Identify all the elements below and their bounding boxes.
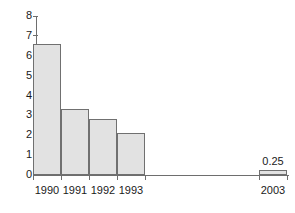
y-tick-label: 6 bbox=[16, 50, 32, 61]
y-tick-label: 4 bbox=[16, 90, 32, 101]
bar-1990[interactable] bbox=[33, 44, 61, 175]
y-tick-mark bbox=[33, 35, 38, 36]
bar-1993[interactable] bbox=[117, 133, 145, 175]
y-tick-mark bbox=[33, 16, 38, 17]
y-tick-label-wrap: 1 bbox=[0, 149, 32, 160]
y-tick-label: 7 bbox=[16, 30, 32, 41]
y-tick-label: 2 bbox=[16, 129, 32, 140]
y-tick-label-wrap: 0 bbox=[0, 169, 32, 180]
x-axis-line bbox=[36, 175, 289, 176]
y-tick-label: 5 bbox=[16, 70, 32, 81]
y-tick-label-wrap: 3 bbox=[0, 109, 32, 120]
bar-1992[interactable] bbox=[89, 119, 117, 175]
x-tick-mark bbox=[61, 176, 62, 180]
x-tick-mark bbox=[287, 176, 288, 180]
y-tick-label-wrap: 5 bbox=[0, 70, 32, 81]
bar-2003[interactable] bbox=[259, 170, 287, 175]
x-tick-mark bbox=[145, 176, 146, 180]
y-tick-label-wrap: 7 bbox=[0, 30, 32, 41]
y-tick-label-wrap: 2 bbox=[0, 129, 32, 140]
y-tick-label-wrap: 4 bbox=[0, 90, 32, 101]
x-tick-label-2003: 2003 bbox=[254, 185, 292, 196]
y-tick-label-wrap: 6 bbox=[0, 50, 32, 61]
x-tick-mark bbox=[33, 176, 34, 180]
x-tick-mark bbox=[259, 176, 260, 180]
bar-chart: 012345678 19901991199219930.252003 bbox=[0, 0, 295, 213]
y-tick-label-wrap: 8 bbox=[0, 10, 32, 21]
x-tick-mark bbox=[117, 176, 118, 180]
y-tick-label: 3 bbox=[16, 109, 32, 120]
x-tick-label-1993: 1993 bbox=[112, 185, 150, 196]
y-tick-label: 8 bbox=[16, 10, 32, 21]
y-tick-label: 0 bbox=[16, 169, 32, 180]
bar-1991[interactable] bbox=[61, 109, 89, 175]
x-tick-mark bbox=[89, 176, 90, 180]
bar-value-label: 0.25 bbox=[253, 156, 293, 167]
y-tick-label: 1 bbox=[16, 149, 32, 160]
